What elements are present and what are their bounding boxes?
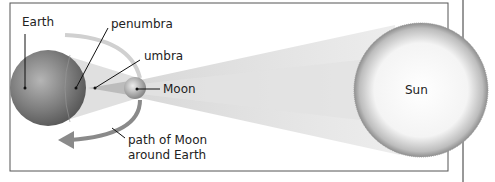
label-penumbra: penumbra <box>111 18 173 31</box>
label-path-line2: around Earth <box>128 149 206 162</box>
label-umbra: umbra <box>144 50 183 63</box>
label-sun: Sun <box>405 84 428 97</box>
label-earth: Earth <box>22 16 54 29</box>
label-moon: Moon <box>163 83 196 96</box>
orbit-arrowhead-icon <box>58 131 74 149</box>
moon-globe <box>124 77 146 99</box>
label-path-line1: path of Moon <box>128 134 207 147</box>
